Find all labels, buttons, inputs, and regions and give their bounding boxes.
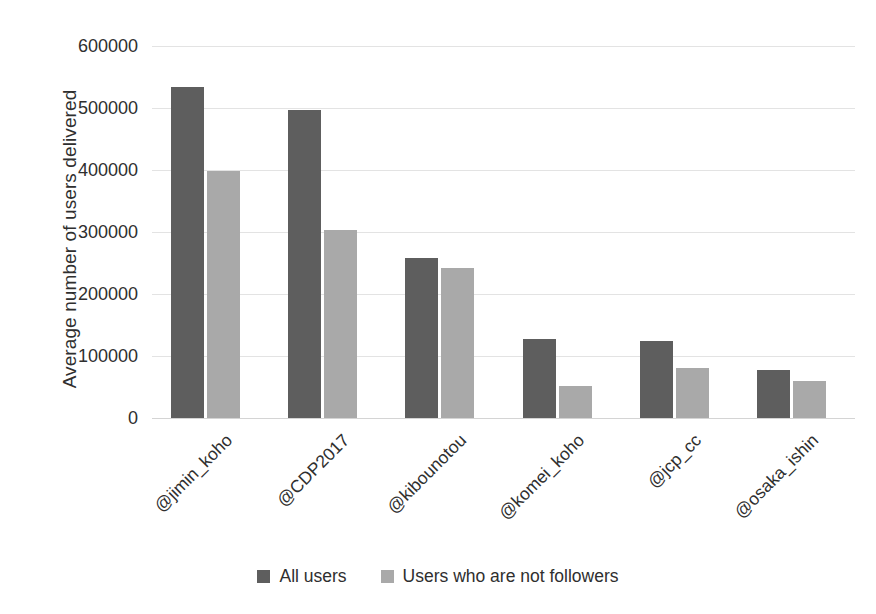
chart-legend: All usersUsers who are not followers	[0, 566, 876, 587]
bar	[559, 386, 592, 418]
bar	[405, 258, 438, 418]
y-axis-tick-label: 100000	[0, 346, 138, 367]
y-axis-tick-label: 600000	[0, 36, 138, 57]
bar-group	[152, 46, 269, 418]
bar-layer	[152, 46, 855, 418]
x-axis-tick-label: @CDP2017	[273, 430, 354, 511]
bar-group	[386, 46, 503, 418]
y-axis-tick-labels: 6000005000004000003000002000001000000	[0, 0, 146, 430]
x-axis-tick-label: @jcp_cc	[643, 430, 705, 492]
plot-area	[152, 46, 855, 418]
x-axis-tick-label: @osaka_ishin	[730, 430, 823, 523]
bar	[676, 368, 709, 418]
legend-item[interactable]: Users who are not followers	[381, 566, 619, 587]
y-axis-tick-label: 200000	[0, 284, 138, 305]
bar-group	[504, 46, 621, 418]
bar	[207, 171, 240, 418]
bar	[523, 339, 556, 418]
legend-swatch-icon	[381, 570, 394, 583]
y-axis-tick-label: 400000	[0, 160, 138, 181]
y-axis-tick-label: 0	[0, 408, 138, 429]
bar-group	[269, 46, 386, 418]
y-axis-tick-label: 300000	[0, 222, 138, 243]
bar-chart: Average number of users delivered 600000…	[0, 0, 876, 614]
bar-group	[738, 46, 855, 418]
bar	[324, 230, 357, 418]
bar	[288, 110, 321, 418]
y-axis-tick-label: 500000	[0, 98, 138, 119]
legend-swatch-icon	[257, 570, 270, 583]
bar	[441, 268, 474, 418]
bar	[793, 381, 826, 418]
legend-label: All users	[279, 566, 346, 587]
x-axis-tick-label: @kibounotou	[383, 430, 471, 518]
bar	[757, 370, 790, 418]
x-axis-tick-labels: @jimin_koho@CDP2017@kibounotou@komei_koh…	[152, 418, 855, 548]
bar	[640, 341, 673, 419]
x-axis-tick-label: @jimin_koho	[150, 430, 237, 517]
legend-item[interactable]: All users	[257, 566, 346, 587]
legend-label: Users who are not followers	[403, 566, 619, 587]
x-axis-tick-label: @komei_koho	[494, 430, 588, 524]
bar	[171, 87, 204, 418]
bar-group	[621, 46, 738, 418]
